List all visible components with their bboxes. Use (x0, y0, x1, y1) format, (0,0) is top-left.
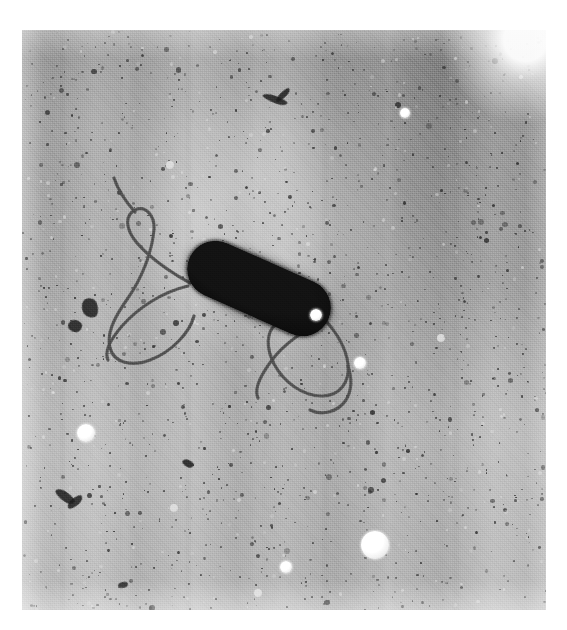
plate-edge-fade (22, 30, 546, 610)
electron-micrograph-plate (22, 30, 546, 610)
micrograph-figure (0, 0, 567, 630)
